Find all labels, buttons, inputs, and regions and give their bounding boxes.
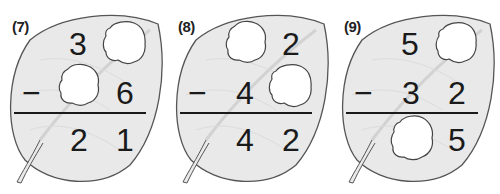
problem-9: (9) 5 − 3 2 5 <box>332 0 498 194</box>
subtrahend-ones: 6 <box>110 76 140 110</box>
hidden-digit-hole[interactable] <box>433 21 479 65</box>
sum-line <box>14 112 146 114</box>
result-tens: 2 <box>64 123 94 157</box>
sum-line <box>180 112 312 114</box>
hidden-digit-hole[interactable] <box>223 20 269 66</box>
problem-8: (8) 2 − 4 4 2 <box>166 0 332 194</box>
hidden-digit-hole[interactable] <box>100 20 148 66</box>
problem-label: (9) <box>344 18 361 35</box>
subtrahend-tens: 3 <box>396 76 426 110</box>
minuend-tens: 5 <box>395 27 425 61</box>
result-tens: 4 <box>230 123 260 157</box>
minuend-tens: 3 <box>63 27 93 61</box>
problem-7: (7) 3 − 6 2 1 <box>0 0 166 194</box>
minus-sign: − <box>354 76 373 110</box>
result-ones: 2 <box>276 123 306 157</box>
problem-label: (7) <box>12 18 29 35</box>
minus-sign: − <box>22 76 41 110</box>
hidden-digit-hole[interactable] <box>266 63 314 109</box>
hidden-digit-hole[interactable] <box>56 63 102 109</box>
minuend-ones: 2 <box>276 27 306 61</box>
minus-sign: − <box>188 76 207 110</box>
problem-label: (8) <box>178 18 195 35</box>
subtrahend-ones: 2 <box>442 76 472 110</box>
result-ones: 1 <box>110 123 140 157</box>
subtrahend-tens: 4 <box>230 76 260 110</box>
hidden-digit-hole[interactable] <box>388 114 436 162</box>
result-ones: 5 <box>442 123 472 157</box>
